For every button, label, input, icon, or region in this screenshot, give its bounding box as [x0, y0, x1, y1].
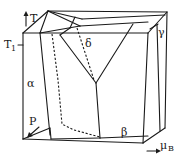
alpha-boundary-line [40, 33, 50, 135]
front-bottom-edge [23, 139, 143, 143]
back-top-edge [48, 11, 167, 12]
mu-axis: μ B [147, 139, 174, 154]
mu-axis-subscript: B [168, 144, 174, 153]
hidden-lines [52, 28, 100, 137]
delta-peak-line [70, 17, 75, 28]
t-axis-arrowhead-icon [24, 11, 29, 16]
phase-delta-label: δ [85, 37, 92, 50]
ridge-line-4 [80, 22, 148, 26]
hidden-boundary-2 [77, 28, 94, 80]
front-right-vertical-edge [143, 33, 148, 143]
t-axis: T [24, 11, 39, 26]
t1-tick: T 1 [4, 38, 23, 53]
ridge-line-1 [48, 11, 80, 26]
gamma-boundary-line [157, 25, 160, 131]
p-axis-label: P [29, 115, 37, 128]
phase-gamma-label: γ [158, 26, 165, 39]
ridge-line-5 [40, 26, 80, 33]
ridge-line-3 [82, 15, 165, 19]
phase-alpha-label: α [27, 77, 35, 90]
mu-axis-label: μ [160, 139, 167, 152]
t1-subscript: 1 [11, 44, 16, 53]
t-axis-label: T [30, 12, 38, 25]
phase-beta-label: β [121, 126, 127, 139]
phase-diagram: T T 1 P μ B α β γ δ [0, 0, 180, 162]
ridge-line-2 [48, 11, 82, 19]
hidden-boundary-1 [52, 34, 100, 137]
alpha-foot-line [50, 128, 51, 139]
triple-vertical-line [96, 83, 100, 138]
beta-alpha-line [51, 138, 100, 139]
back-right-vertical-edge [165, 12, 167, 128]
